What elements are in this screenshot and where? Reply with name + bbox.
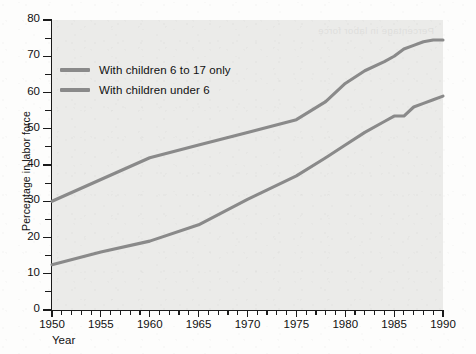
legend-swatch-children-under-6 (60, 88, 90, 91)
legend-label-children-6-to-17: With children 6 to 17 only (99, 64, 231, 76)
chart-legend: With children 6 to 17 only With children… (60, 64, 231, 96)
legend-item-children-6-to-17: With children 6 to 17 only (60, 64, 231, 76)
series-layer (0, 0, 476, 354)
legend-swatch-children-6-to-17 (60, 68, 90, 71)
legend-label-children-under-6: With children under 6 (99, 84, 210, 96)
chart-figure: Percentage in labor force 01020304050607… (0, 0, 476, 354)
series-line-children-under-6 (52, 96, 443, 265)
legend-item-children-under-6: With children under 6 (60, 84, 231, 96)
